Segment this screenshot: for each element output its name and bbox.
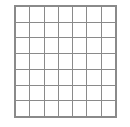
grid-cell-empty-r2c7[interactable]: empty [101, 22, 115, 38]
grid-cell-hatched-r6c5[interactable]: hatched [73, 85, 87, 101]
grid-cell-state: empty [87, 101, 100, 116]
grid-cell-state: hatched [87, 86, 100, 101]
grid-cell-empty-r7c1[interactable]: empty [16, 101, 30, 117]
grid-cell-state: empty [45, 101, 58, 116]
grid-cell-empty-r7c5[interactable]: empty [73, 101, 87, 117]
grid-cell-hatched-r3c4[interactable]: hatched [58, 38, 72, 54]
grid-row: emptyemptyemptyemptyemptyemptyempty [16, 7, 116, 23]
grid-cell-state: filled [59, 54, 72, 69]
grid-cell-hatched-r6c6[interactable]: hatched [87, 85, 101, 101]
grid-cell-state: hatched [73, 86, 86, 101]
grid-row: emptyhatchedhatchedhatchedhatchedhatched… [16, 38, 116, 54]
grid-cell-state: empty [45, 7, 58, 22]
grid-cell-state: hatched [30, 23, 43, 38]
grid-cell-empty-r3c1[interactable]: empty [16, 38, 30, 54]
grid-cell-state: empty [16, 70, 29, 85]
grid-cell-hatched-r3c2[interactable]: hatched [30, 38, 44, 54]
grid-cell-empty-r1c6[interactable]: empty [87, 7, 101, 23]
grid-row: emptyhatchedhatchedhatchedhatchedhatched… [16, 85, 116, 101]
grid-cell-state: empty [16, 23, 29, 38]
grid-cell-hatched-r3c5[interactable]: hatched [73, 38, 87, 54]
grid-cell-hatched-r4c5[interactable]: hatched [73, 54, 87, 70]
grid-cell-state: empty [102, 7, 115, 22]
grid-cell-state: empty [102, 70, 115, 85]
grid-row: emptyhatchedhatchedhatchedhatchedhatched… [16, 69, 116, 85]
grid-cell-hatched-r4c3[interactable]: hatched [44, 54, 58, 70]
grid-cell-filled-r4c4[interactable]: filled [58, 54, 72, 70]
grid-cell-state: hatched [59, 70, 72, 85]
grid-cell-state: hatched [30, 38, 43, 53]
grid-cell-empty-r7c3[interactable]: empty [44, 101, 58, 117]
grid-cell-state: hatched [45, 70, 58, 85]
grid-cell-empty-r2c1[interactable]: empty [16, 22, 30, 38]
grid-cell-state: hatched [30, 86, 43, 101]
grid-cell-state: empty [30, 7, 43, 22]
grid-cell-hatched-r2c3[interactable]: hatched [44, 22, 58, 38]
grid-cell-state: hatched [30, 70, 43, 85]
grid-cell-hatched-r3c6[interactable]: hatched [87, 38, 101, 54]
grid-cell-hatched-r2c5[interactable]: hatched [73, 22, 87, 38]
grid-row: emptyhatchedhatchedfilledhatchedhatchede… [16, 54, 116, 70]
grid-row: emptyhatchedhatchedhatchedhatchedhatched… [16, 22, 116, 38]
grid-body: emptyemptyemptyemptyemptyemptyemptyempty… [16, 7, 116, 117]
grid-cell-state: empty [16, 101, 29, 116]
grid-cell-state: hatched [73, 23, 86, 38]
grid-cell-empty-r7c6[interactable]: empty [87, 101, 101, 117]
grid-cell-hatched-r5c3[interactable]: hatched [44, 69, 58, 85]
grid-cell-hatched-r2c2[interactable]: hatched [30, 22, 44, 38]
grid-cell-empty-r1c2[interactable]: empty [30, 7, 44, 23]
grid-cell-empty-r1c4[interactable]: empty [58, 7, 72, 23]
grid-cell-empty-r1c1[interactable]: empty [16, 7, 30, 23]
grid-cell-state: empty [87, 7, 100, 22]
grid-cell-empty-r6c7[interactable]: empty [101, 85, 115, 101]
grid-cell-state: hatched [30, 54, 43, 69]
grid-cell-state: hatched [73, 70, 86, 85]
grid-cell-state: empty [102, 86, 115, 101]
grid-cell-state: hatched [87, 23, 100, 38]
grid-cell-empty-r7c7[interactable]: empty [101, 101, 115, 117]
grid-cell-empty-r6c1[interactable]: empty [16, 85, 30, 101]
grid-cell-state: empty [16, 54, 29, 69]
grid-cell-empty-r1c5[interactable]: empty [73, 7, 87, 23]
grid-cell-hatched-r3c3[interactable]: hatched [44, 38, 58, 54]
grid-cell-state: empty [16, 7, 29, 22]
grid-cell-empty-r5c7[interactable]: empty [101, 69, 115, 85]
grid-cell-state: hatched [45, 54, 58, 69]
grid-cell-empty-r3c7[interactable]: empty [101, 38, 115, 54]
grid-cell-hatched-r4c2[interactable]: hatched [30, 54, 44, 70]
grid-cell-empty-r7c4[interactable]: empty [58, 101, 72, 117]
grid-cell-hatched-r4c6[interactable]: hatched [87, 54, 101, 70]
grid-cell-empty-r1c3[interactable]: empty [44, 7, 58, 23]
grid-cell-empty-r5c1[interactable]: empty [16, 69, 30, 85]
grid-cell-state: hatched [59, 23, 72, 38]
grid-cell-hatched-r2c6[interactable]: hatched [87, 22, 101, 38]
grid-cell-empty-r4c1[interactable]: empty [16, 54, 30, 70]
grid-cell-hatched-r5c4[interactable]: hatched [58, 69, 72, 85]
grid-cell-hatched-r6c3[interactable]: hatched [44, 85, 58, 101]
grid-cell-state: empty [73, 7, 86, 22]
grid-diagram: emptyemptyemptyemptyemptyemptyemptyempty… [14, 5, 117, 118]
grid-cell-state: hatched [45, 23, 58, 38]
grid-cell-empty-r4c7[interactable]: empty [101, 54, 115, 70]
grid-cell-state: empty [102, 101, 115, 116]
grid-cell-hatched-r5c6[interactable]: hatched [87, 69, 101, 85]
grid-cell-empty-r7c2[interactable]: empty [30, 101, 44, 117]
grid-table: emptyemptyemptyemptyemptyemptyemptyempty… [15, 6, 116, 117]
screenshot-canvas: emptyemptyemptyemptyemptyemptyemptyempty… [0, 0, 130, 127]
grid-cell-hatched-r5c5[interactable]: hatched [73, 69, 87, 85]
grid-cell-hatched-r5c2[interactable]: hatched [30, 69, 44, 85]
grid-cell-hatched-r6c4[interactable]: hatched [58, 85, 72, 101]
grid-cell-empty-r1c7[interactable]: empty [101, 7, 115, 23]
grid-cell-hatched-r6c2[interactable]: hatched [30, 85, 44, 101]
grid-cell-hatched-r2c4[interactable]: hatched [58, 22, 72, 38]
grid-row: emptyemptyemptyemptyemptyemptyempty [16, 101, 116, 117]
grid-cell-state: hatched [87, 70, 100, 85]
grid-cell-state: hatched [45, 86, 58, 101]
grid-cell-state: empty [30, 101, 43, 116]
grid-cell-state: empty [102, 54, 115, 69]
grid-cell-state: hatched [73, 38, 86, 53]
grid-cell-state: empty [102, 23, 115, 38]
grid-cell-state: empty [59, 101, 72, 116]
grid-cell-state: hatched [73, 54, 86, 69]
grid-cell-state: hatched [59, 38, 72, 53]
